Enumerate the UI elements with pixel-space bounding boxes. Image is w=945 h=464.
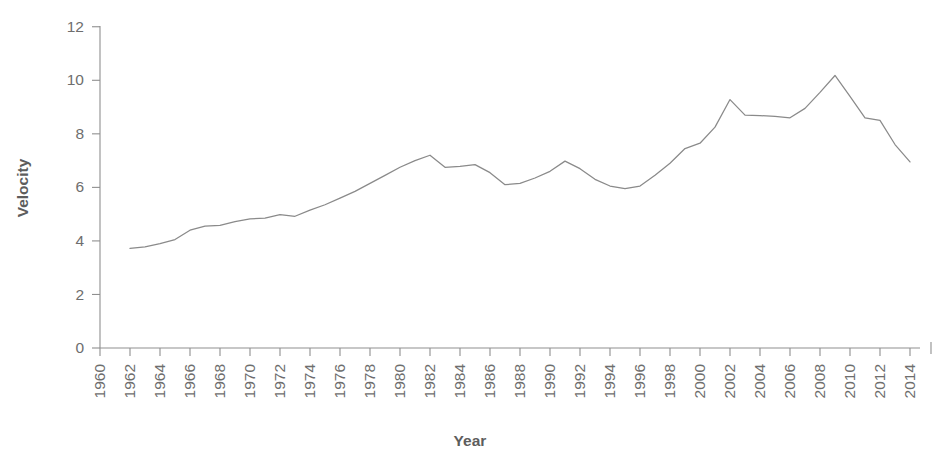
x-tick-label: 2008 <box>811 364 828 398</box>
x-tick-label: 1974 <box>301 364 318 399</box>
x-tick-label: 1998 <box>661 364 678 398</box>
x-tick-label: 2006 <box>781 364 798 398</box>
x-tick-label: 1962 <box>121 364 138 398</box>
data-series-line <box>130 75 910 248</box>
x-tick-label: 1986 <box>481 364 498 398</box>
x-tick-label: 1978 <box>361 364 378 398</box>
x-tick-label: 2002 <box>721 364 738 398</box>
x-axis-ticks: 1960196219641966196819701972197419761978… <box>91 348 918 398</box>
y-tick-label: 10 <box>67 71 85 88</box>
y-tick-label: 6 <box>75 178 84 195</box>
x-tick-label: 1976 <box>331 364 348 398</box>
x-tick-label: 1972 <box>271 364 288 398</box>
y-tick-label: 4 <box>75 232 84 249</box>
y-tick-label: 2 <box>75 286 84 303</box>
y-tick-label: 0 <box>75 339 84 356</box>
x-tick-label: 2010 <box>841 364 858 399</box>
x-tick-label: 1988 <box>511 364 528 398</box>
x-tick-label: 1982 <box>421 364 438 398</box>
y-tick-label: 8 <box>75 125 84 142</box>
x-tick-label: 1994 <box>601 364 618 399</box>
x-tick-label: 1964 <box>151 364 168 399</box>
x-tick-label: 1980 <box>391 364 408 399</box>
x-tick-label: 1968 <box>211 364 228 398</box>
x-tick-label: 2014 <box>901 364 918 399</box>
x-tick-label: 1984 <box>451 364 468 399</box>
x-tick-label: 2012 <box>871 364 888 398</box>
x-tick-label: 2004 <box>751 364 768 399</box>
x-tick-label: 1966 <box>181 364 198 398</box>
y-tick-label: 12 <box>67 18 84 35</box>
x-tick-label: 1996 <box>631 364 648 398</box>
x-tick-label: 2000 <box>691 364 708 399</box>
x-tick-label: 1990 <box>541 364 558 399</box>
x-tick-label: 1960 <box>91 364 108 399</box>
line-chart: 024681012 196019621964196619681970197219… <box>0 0 945 464</box>
y-axis-title: Velocity <box>14 158 31 217</box>
chart-container: 024681012 196019621964196619681970197219… <box>0 0 945 464</box>
x-axis-title: Year <box>454 432 487 449</box>
x-tick-label: 1992 <box>571 364 588 398</box>
x-tick-label: 1970 <box>241 364 258 399</box>
y-axis-ticks: 024681012 <box>67 18 100 356</box>
